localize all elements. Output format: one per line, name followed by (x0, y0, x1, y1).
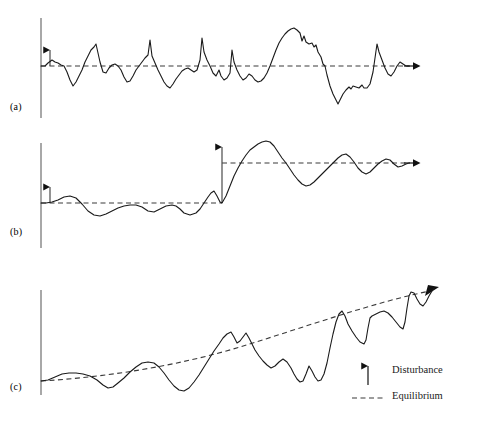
panel-b (41, 141, 414, 248)
resilience-figure: (a) (b) (c) (0, 0, 483, 448)
panel-c (41, 285, 439, 395)
legend-equilibrium-label: Equilibrium (392, 390, 443, 401)
panel-b-label: (b) (10, 226, 22, 238)
panel-b-series (41, 141, 409, 216)
panel-c-series (41, 288, 434, 391)
legend (352, 366, 385, 398)
panel-c-label: (c) (10, 381, 22, 393)
panel-a-label: (a) (10, 101, 22, 113)
panel-c-equilibrium-curve (41, 291, 430, 381)
panel-a (41, 18, 414, 118)
legend-disturbance-label: Disturbance (392, 364, 443, 375)
